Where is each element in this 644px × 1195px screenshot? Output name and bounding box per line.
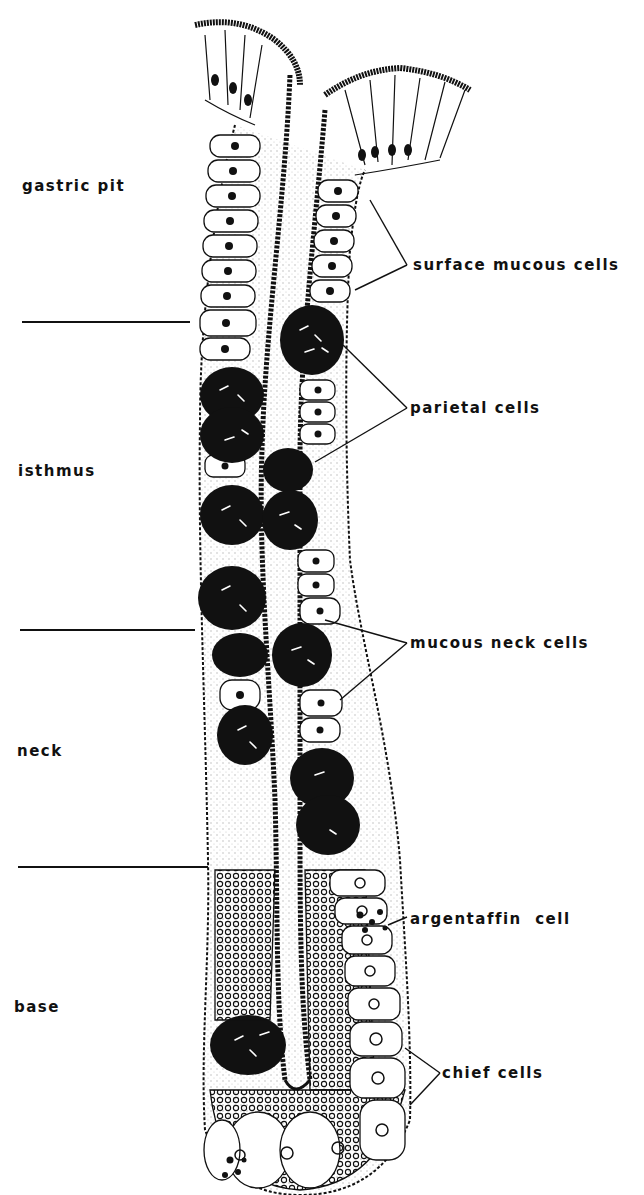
region-label-base: base [14,1000,60,1015]
cell-label-argentaffin-cell: argentaffin cell [410,912,571,927]
cell-label-chief-cells: chief cells [442,1066,543,1081]
cell-label-surface-mucous-cells: surface mucous cells [413,258,620,273]
divider-isthmus-neck [20,629,195,631]
divider-pit-isthmus [22,321,190,323]
divider-neck-base [18,866,208,868]
region-label-gastric-pit: gastric pit [22,179,125,194]
region-label-neck: neck [17,744,63,759]
cell-label-mucous-neck-cells: mucous neck cells [410,636,589,651]
region-label-isthmus: isthmus [18,464,96,479]
cell-label-parietal-cells: parietal cells [410,401,541,416]
